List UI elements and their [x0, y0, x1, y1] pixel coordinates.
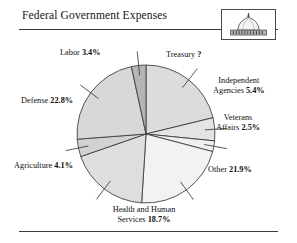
slice-label-defense: Defense 22.8%	[21, 96, 73, 106]
label-name-defense: Defense	[21, 96, 48, 105]
label-name-labor: Labor	[60, 48, 80, 57]
label-line1-veterans: Veterans	[216, 113, 260, 123]
label-name-hhs: Services	[117, 215, 145, 224]
label-name-treasury: Treasury	[166, 50, 195, 59]
label-name-independent: Agencies	[213, 86, 244, 95]
label-value-other: 21.9%	[229, 165, 252, 174]
slice-label-health-and-human-services: Health and Human Services 18.7%	[86, 205, 202, 226]
label-name-veterans: Affairs	[216, 123, 239, 132]
label-line1-independent: Independent	[213, 76, 265, 86]
label-value-agriculture: 4.1%	[54, 161, 73, 170]
slice-label-veterans-affairs: Veterans Affairs 2.5%	[216, 113, 260, 134]
label-value-veterans: 2.5%	[241, 123, 260, 132]
slice-label-labor: Labor 3.4%	[60, 48, 101, 58]
label-value-independent: 5.4%	[246, 86, 265, 95]
pie-chart-figure: Federal Government Expenses	[0, 0, 297, 243]
pie-slices	[77, 65, 215, 203]
slice-label-independent-agencies: Independent Agencies 5.4%	[213, 76, 265, 97]
slice-label-agriculture: Agriculture 4.1%	[14, 161, 73, 171]
capitol-dome-icon	[221, 9, 276, 40]
label-name-agriculture: Agriculture	[14, 161, 52, 170]
label-value-defense: 22.8%	[50, 96, 73, 105]
label-name-other: Other	[208, 165, 227, 174]
label-value-treasury: ?	[197, 50, 201, 59]
label-value-hhs: 18.7%	[148, 215, 171, 224]
slice-label-treasury: Treasury ?	[166, 50, 201, 60]
figure-header: Federal Government Expenses	[0, 0, 297, 46]
label-line1-hhs: Health and Human	[86, 205, 202, 215]
page-title: Federal Government Expenses	[22, 9, 167, 21]
slice-label-other: Other 21.9%	[208, 165, 252, 175]
label-value-labor: 3.4%	[82, 48, 101, 57]
footer-divider	[19, 231, 278, 232]
